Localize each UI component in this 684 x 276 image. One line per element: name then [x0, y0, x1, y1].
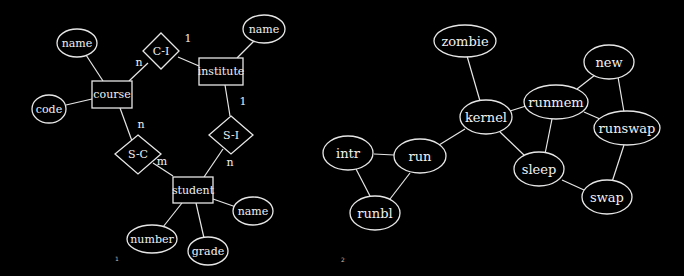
edge-run-runbl — [390, 173, 410, 199]
cardinality-ci-course: n — [135, 56, 142, 69]
node-run[interactable]: run — [394, 139, 446, 173]
attribute-label: name — [238, 205, 269, 218]
attribute-student-number[interactable]: number — [127, 225, 177, 253]
edge-runmem-sleep — [545, 119, 552, 154]
node-label: sleep — [522, 162, 557, 177]
entity-student[interactable]: student — [172, 177, 215, 203]
node-label: run — [409, 149, 433, 164]
attribute-label: grade — [192, 245, 224, 258]
state-graph: zombie new runmem kernel runswap intr ru… — [323, 25, 660, 263]
node-label: new — [595, 55, 622, 70]
edge-institute-name — [237, 41, 254, 58]
er-diagram: name code name name number grade course — [32, 15, 285, 265]
cardinality-si-institute: 1 — [240, 95, 247, 108]
attribute-student-grade[interactable]: grade — [188, 237, 228, 265]
edge-ci-institute — [178, 57, 199, 66]
edge-new-runswap — [618, 77, 624, 112]
relationship-label: C-I — [153, 45, 169, 58]
edge-kernel-run — [439, 129, 465, 145]
node-sleep[interactable]: sleep — [514, 152, 564, 186]
node-label: runswap — [599, 121, 656, 136]
edge-intr-runbl — [356, 169, 370, 196]
attribute-label: name — [62, 37, 93, 50]
edge-runmem-new — [577, 75, 595, 89]
entity-course[interactable]: course — [92, 81, 132, 108]
edge-kernel-sleep — [500, 132, 524, 155]
edge-student-name — [213, 199, 236, 207]
edge-student-number — [163, 203, 182, 227]
cardinality-sc-student: m — [157, 155, 168, 168]
attribute-label: name — [249, 23, 280, 36]
entity-label: institute — [198, 65, 245, 78]
edge-kernel-runmem — [510, 106, 526, 111]
node-new[interactable]: new — [584, 45, 634, 79]
edge-institute-si — [225, 85, 230, 116]
entity-label: course — [93, 88, 130, 101]
node-kernel[interactable]: kernel — [460, 100, 512, 134]
edge-runmem-runswap — [584, 112, 600, 119]
relationship-label: S-C — [128, 148, 148, 161]
entity-institute[interactable]: institute — [198, 58, 245, 85]
edge-si-student — [204, 149, 223, 177]
node-label: zombie — [441, 34, 488, 49]
cardinality-ci-institute: 1 — [185, 32, 192, 45]
attribute-course-code[interactable]: code — [32, 95, 66, 123]
node-runmem[interactable]: runmem — [524, 85, 588, 119]
edge-course-code — [66, 99, 92, 105]
node-label: kernel — [465, 110, 507, 125]
node-swap[interactable]: swap — [582, 180, 632, 214]
relationship-label: S-I — [223, 129, 239, 142]
node-label: intr — [336, 146, 361, 161]
relationship-si[interactable]: S-I — [209, 116, 253, 154]
node-label: runmem — [528, 95, 583, 110]
node-runswap[interactable]: runswap — [594, 111, 660, 145]
attribute-student-name[interactable]: name — [233, 197, 273, 225]
relationship-ci[interactable]: C-I — [143, 33, 179, 69]
attribute-course-name[interactable]: name — [57, 29, 97, 57]
cardinality-sc-course: n — [137, 118, 144, 131]
attribute-label: code — [36, 103, 62, 116]
edge-sleep-swap — [562, 180, 584, 190]
diagram-canvas: name code name name number grade course — [0, 0, 684, 276]
attribute-label: number — [130, 233, 174, 246]
edge-zombie-kernel — [467, 56, 480, 101]
node-runbl[interactable]: runbl — [350, 196, 400, 230]
node-zombie[interactable]: zombie — [434, 25, 496, 57]
edge-intr-run — [374, 154, 394, 155]
edge-runswap-swap — [612, 145, 624, 182]
figure-caption-2: 2 — [341, 256, 345, 263]
relationship-sc[interactable]: S-C — [115, 135, 161, 174]
node-label: runbl — [357, 206, 392, 221]
node-label: swap — [590, 190, 624, 205]
edge-student-grade — [196, 203, 204, 238]
entity-label: student — [172, 184, 215, 197]
attribute-institute-name[interactable]: name — [243, 15, 285, 43]
figure-caption-1: 1 — [115, 255, 119, 262]
cardinality-si-student: n — [226, 156, 233, 169]
edge-course-name — [86, 55, 103, 81]
edge-course-sc — [120, 108, 132, 141]
node-intr[interactable]: intr — [323, 136, 373, 170]
